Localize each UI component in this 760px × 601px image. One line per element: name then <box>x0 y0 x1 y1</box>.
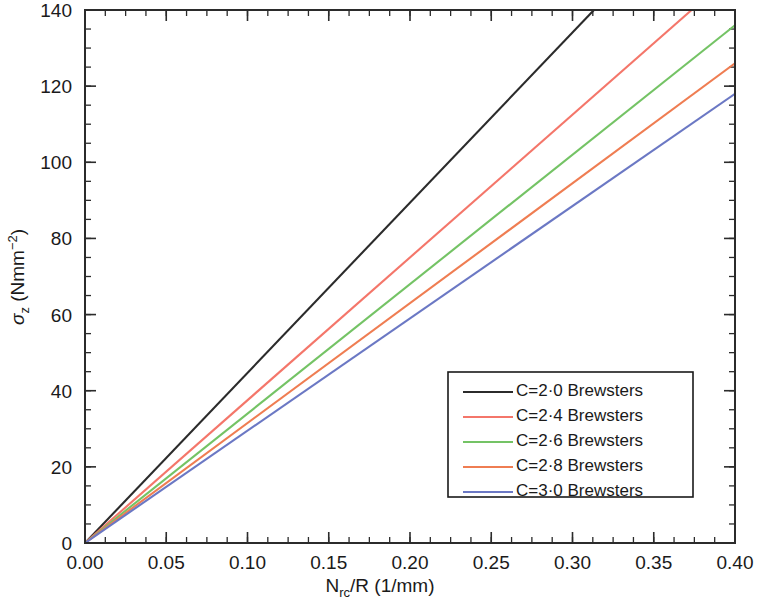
y-tick-label: 20 <box>51 457 72 478</box>
x-tick-label: 0.00 <box>67 552 104 573</box>
y-axis-title: σz (Nmm−2) <box>5 229 32 325</box>
y-tick-label: 0 <box>61 533 72 554</box>
x-tick-label: 0.05 <box>148 552 185 573</box>
chart-figure: 0.000.050.100.150.200.250.300.350.40 020… <box>0 0 760 601</box>
y-tick-label: 140 <box>40 0 72 21</box>
legend-label: C=2·6 Brewsters <box>516 431 643 450</box>
x-axis-tick-labels: 0.000.050.100.150.200.250.300.350.40 <box>67 552 754 573</box>
legend-label: C=3·0 Brewsters <box>516 481 643 500</box>
legend: C=2·0 BrewstersC=2·4 BrewstersC=2·6 Brew… <box>448 372 693 500</box>
y-axis-tick-labels: 020406080100120140 <box>40 0 72 554</box>
y-tick-label: 40 <box>51 381 72 402</box>
x-tick-label: 0.25 <box>473 552 510 573</box>
x-tick-label: 0.10 <box>229 552 266 573</box>
x-tick-label: 0.20 <box>392 552 429 573</box>
y-tick-label: 100 <box>40 152 72 173</box>
x-axis-title: Nrc/R (1/mm) <box>325 575 434 600</box>
x-tick-label: 0.15 <box>310 552 347 573</box>
line-chart: 0.000.050.100.150.200.250.300.350.40 020… <box>0 0 760 601</box>
legend-label: C=2·4 Brewsters <box>516 406 643 425</box>
legend-label: C=2·8 Brewsters <box>516 456 643 475</box>
x-tick-label: 0.30 <box>554 552 591 573</box>
x-tick-label: 0.40 <box>717 552 754 573</box>
y-tick-label: 120 <box>40 76 72 97</box>
y-tick-label: 60 <box>51 305 72 326</box>
legend-label: C=2·0 Brewsters <box>516 381 643 400</box>
y-tick-label: 80 <box>51 228 72 249</box>
x-tick-label: 0.35 <box>635 552 672 573</box>
